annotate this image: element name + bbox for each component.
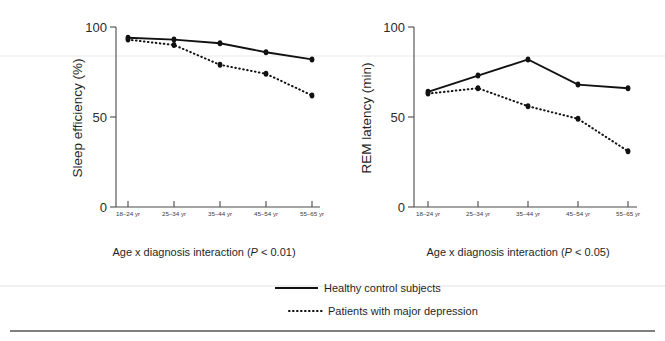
series-line-patients-rem [428, 88, 628, 151]
x-tick-label-3-right: 45–54 yr [566, 210, 590, 217]
y-axis-title-sleep-efficiency: Sleep efficiency (%) [70, 58, 85, 177]
data-point-marker [218, 40, 223, 46]
caption-sleep-efficiency: Age x diagnosis interaction (P < 0.01) [112, 246, 295, 258]
y-tick-label-0-left: 0 [100, 200, 107, 215]
legend-label-patients-depression: Patients with major depression [328, 305, 478, 317]
data-point-marker [172, 37, 177, 43]
x-tick-label-3-left: 45–54 yr [254, 210, 278, 217]
data-point-marker [264, 49, 269, 55]
y-axis-title-rem-latency: REM latency (min) [359, 62, 374, 173]
figure-svg: Sleep efficiency (%) 100 50 0 18–24 yr 2… [0, 0, 665, 341]
x-tick-label-4-right: 55–65 yr [616, 210, 640, 217]
data-point-marker [526, 56, 531, 62]
y-tick-label-50-left: 50 [93, 110, 107, 125]
data-point-marker [576, 82, 581, 88]
y-tick-label-100-left: 100 [85, 20, 107, 35]
series-markers-patients-rem [426, 85, 631, 154]
x-tick-label-2-right: 35–44 yr [516, 210, 540, 217]
data-point-marker [126, 37, 131, 43]
x-tick-label-2-left: 35–44 yr [208, 210, 232, 217]
y-tick-label-0-right: 0 [398, 200, 405, 215]
x-tick-label-1-left: 25–34 yr [162, 210, 186, 217]
x-tick-label-4-left: 55–65 yr [300, 210, 324, 217]
data-point-marker [626, 85, 631, 91]
data-point-marker [310, 56, 315, 62]
data-point-marker [476, 73, 481, 79]
x-tick-label-0-right: 18–24 yr [416, 210, 440, 217]
data-point-marker [310, 92, 315, 98]
data-point-marker [526, 103, 531, 109]
data-point-marker [264, 71, 269, 77]
y-tick-label-100-right: 100 [383, 20, 405, 35]
data-point-marker [476, 85, 481, 91]
y-tick-label-50-right: 50 [391, 110, 405, 125]
figure-root: Sleep efficiency (%) 100 50 0 18–24 yr 2… [0, 0, 665, 341]
data-point-marker [218, 62, 223, 68]
series-markers-control-rem [426, 56, 631, 94]
x-tick-label-0-left: 18–24 yr [116, 210, 140, 217]
data-point-marker [426, 91, 431, 97]
legend: Healthy control subjects Patients with m… [275, 282, 478, 317]
legend-label-healthy-controls: Healthy control subjects [324, 282, 441, 294]
data-point-marker [576, 116, 581, 122]
data-point-marker [172, 42, 177, 48]
caption-rem-latency: Age x diagnosis interaction (P < 0.05) [426, 246, 609, 258]
data-point-marker [626, 148, 631, 154]
x-tick-label-1-right: 25–34 yr [466, 210, 490, 217]
series-line-control-rem [428, 59, 628, 91]
